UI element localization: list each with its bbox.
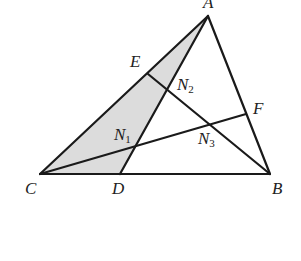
label-n3: N3 (197, 129, 215, 149)
label-c: C (25, 179, 37, 198)
segment-ab (208, 16, 270, 174)
triangle-diagram: A B C D E F N1 N2 N3 (0, 0, 301, 261)
label-a: A (202, 0, 214, 12)
label-e: E (129, 52, 141, 71)
label-d: D (111, 179, 125, 198)
label-n2: N2 (176, 75, 194, 95)
label-b: B (272, 179, 283, 198)
label-f: F (252, 99, 264, 118)
